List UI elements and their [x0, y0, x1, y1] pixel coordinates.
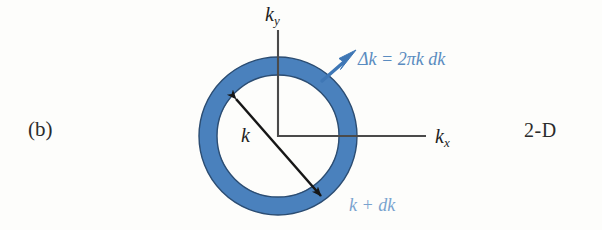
ring-area-annotation: Δk = 2πk dk	[358, 50, 445, 68]
callout-arrow	[322, 50, 356, 81]
axis-y-symbol: k	[265, 3, 274, 25]
callout-arrow-shaft	[322, 61, 345, 81]
axis-x-symbol: k	[435, 125, 444, 147]
panel-label: (b)	[28, 119, 53, 140]
dimension-label: 2-D	[524, 120, 557, 140]
k-space-diagram-svg	[0, 0, 602, 230]
axis-x-label: kx	[435, 126, 450, 149]
callout-arrow-head	[339, 50, 356, 70]
axis-y-label: ky	[265, 4, 280, 27]
radius-label: k	[241, 125, 250, 145]
axis-x-subscript: x	[444, 135, 450, 150]
axis-y-subscript: y	[274, 13, 280, 28]
figure-2d-k-space-annulus: (b) 2-D ky kx k Δk = 2πk dk k + dk	[0, 0, 602, 230]
outer-radius-annotation: k + dk	[349, 196, 395, 214]
